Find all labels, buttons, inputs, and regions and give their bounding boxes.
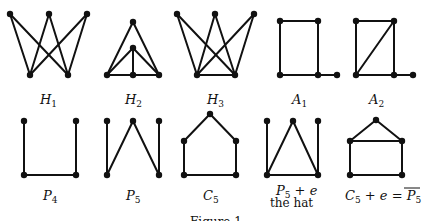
vertex-C5-mr [233, 138, 239, 144]
edge-hat-bl-tm [267, 121, 293, 175]
vertex-A2-tr [391, 18, 397, 24]
vertex-A2-tl [353, 18, 359, 24]
vertex-H1-t3 [84, 11, 90, 17]
vertex-A2-br [391, 72, 397, 78]
vertex-A2-tail [410, 72, 416, 78]
vertex-hat-bl [264, 172, 270, 178]
label-hat-name: the hat [270, 196, 313, 210]
vertex-H1-b1 [27, 72, 33, 78]
vertex-C5e-apex [373, 117, 379, 123]
vertex-C5-bl [181, 172, 187, 178]
vertex-C5-br [233, 172, 239, 178]
label-A1: A1 [291, 92, 307, 109]
vertex-H1-t1 [7, 11, 13, 17]
vertex-H1-b2 [65, 72, 71, 78]
vertex-C5-ml [181, 138, 187, 144]
label-P4: P4 [42, 188, 58, 205]
edge-H2-top-bl [107, 22, 133, 75]
vertex-A1-tail [334, 72, 340, 78]
vertex-P5-br [156, 172, 162, 178]
vertex-P5-tl [104, 118, 110, 124]
graph-hat [264, 118, 321, 178]
vertex-A1-tr [315, 18, 321, 24]
edge-C5-apex-ml [184, 114, 210, 141]
vertex-C5-apex [207, 111, 213, 117]
vertex-P5-bl [104, 172, 110, 178]
vertex-P4-br [73, 172, 79, 178]
vertex-P4-tr [73, 118, 79, 124]
vertex-C5e-ml [347, 138, 353, 144]
edge-C5e-apex-mr [376, 120, 402, 141]
vertex-A1-bl [277, 72, 283, 78]
graph-C5e [347, 117, 405, 178]
edge-H2-mid-bl [107, 48, 133, 75]
vertex-H2-top [130, 19, 136, 25]
vertex-P4-bl [21, 172, 27, 178]
label-H2: H2 [124, 92, 142, 109]
graph-H3 [174, 11, 257, 78]
vertex-H2-br [156, 72, 162, 78]
vertex-hat-tl [264, 118, 270, 124]
edge-hat-tm-br [293, 121, 318, 175]
edge-C5e-apex-ml [350, 120, 376, 141]
vertex-H3-t2 [212, 11, 218, 17]
vertex-hat-tm [290, 118, 296, 124]
graph-figure: H1 H2 H3 A1 A2 P4 P5 C5 P5 + e the hat C… [0, 0, 428, 221]
graph-C5 [181, 111, 239, 178]
label-A2: A2 [368, 92, 384, 109]
vertex-P5-tr [156, 118, 162, 124]
vertex-A1-br [315, 72, 321, 78]
label-H3: H3 [206, 92, 224, 109]
vertex-H3-b1 [194, 72, 200, 78]
label-H1: H1 [39, 92, 57, 109]
graph-P4 [21, 118, 79, 178]
label-C5e: C5 + e = P5 [345, 188, 421, 205]
vertex-hat-br [315, 172, 321, 178]
edge-P5-bl-tm [107, 121, 133, 175]
vertex-P4-tl [21, 118, 27, 124]
graph-H1 [7, 11, 90, 78]
label-P5: P5 [125, 188, 141, 205]
vertex-A2-bl [353, 72, 359, 78]
vertex-H3-b2 [232, 72, 238, 78]
vertex-H3-t1 [174, 11, 180, 17]
vertex-P5-tm [130, 118, 136, 124]
vertex-A1-tl [277, 18, 283, 24]
edge-A2-bl-tr [356, 21, 394, 75]
vertex-C5e-bl [347, 172, 353, 178]
vertex-C5e-br [399, 172, 405, 178]
vertex-hat-tr [315, 118, 321, 124]
edge-H2-top-br [133, 22, 159, 75]
vertex-H1-t2 [46, 11, 52, 17]
graph-A1 [277, 18, 340, 78]
graph-A2 [353, 18, 416, 78]
vertex-H2-bm [130, 72, 136, 78]
edge-H2-mid-br [133, 48, 159, 75]
vertex-H2-bl [104, 72, 110, 78]
edge-C5-apex-mr [210, 114, 236, 141]
vertex-C5e-mr [399, 138, 405, 144]
vertex-H3-t3 [251, 11, 257, 17]
label-C5: C5 [203, 188, 219, 205]
figure-caption: Figure 1 [190, 215, 242, 221]
vertex-H2-mid [130, 45, 136, 51]
graph-H2 [104, 19, 162, 78]
graph-P5 [104, 118, 162, 178]
edge-P5-tm-br [133, 121, 159, 175]
